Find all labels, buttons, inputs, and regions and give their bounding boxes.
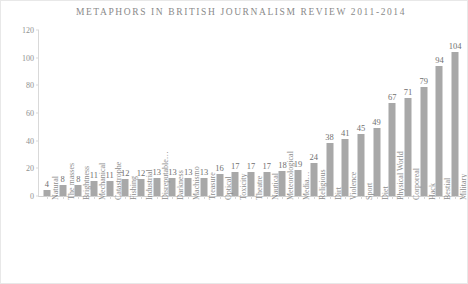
bar-slot: 17 bbox=[227, 30, 243, 196]
bar[interactable] bbox=[90, 181, 97, 196]
bar-value-label: 79 bbox=[419, 76, 428, 86]
bar-value-label: 19 bbox=[294, 159, 303, 169]
x-axis-tick-mark bbox=[94, 196, 95, 199]
bar[interactable] bbox=[420, 87, 427, 196]
x-axis-label-slot: Theatre bbox=[243, 200, 259, 284]
bar[interactable] bbox=[106, 181, 113, 196]
x-axis-tick-mark bbox=[110, 196, 111, 199]
bar[interactable] bbox=[216, 174, 223, 196]
x-axis-tick-mark bbox=[439, 196, 440, 199]
x-axis-label-slot: Catastrophe bbox=[102, 200, 118, 284]
x-axis-tick-mark bbox=[157, 196, 158, 199]
x-axis-label-slot: Diet bbox=[369, 200, 385, 284]
x-axis-tick-mark bbox=[345, 196, 346, 199]
x-axis-tick-mark bbox=[220, 196, 221, 199]
bar[interactable] bbox=[247, 172, 254, 196]
bar[interactable] bbox=[200, 178, 207, 196]
x-axis-label-slot: Optical bbox=[212, 200, 228, 284]
x-axis-tick-mark bbox=[392, 196, 393, 199]
x-axis-label-slot: Brightness bbox=[70, 200, 86, 284]
x-axis-tick-mark bbox=[455, 196, 456, 199]
x-axis-tick-mark bbox=[125, 196, 126, 199]
x-axis-tick-mark bbox=[78, 196, 79, 199]
bar[interactable] bbox=[310, 163, 317, 196]
x-axis-label-slot: Violence bbox=[337, 200, 353, 284]
bar-value-label: 94 bbox=[435, 55, 444, 65]
x-axis-tick-mark bbox=[282, 196, 283, 199]
x-axis-tick-mark bbox=[235, 196, 236, 199]
x-axis-label-slot: Treasure bbox=[196, 200, 212, 284]
x-axis-tick-label: Toxicity bbox=[239, 173, 248, 200]
bar[interactable] bbox=[138, 179, 145, 196]
bar-value-label: 45 bbox=[357, 123, 366, 133]
bar[interactable] bbox=[357, 134, 364, 196]
x-axis-tick-mark bbox=[408, 196, 409, 199]
bar-value-label: 8 bbox=[76, 174, 80, 184]
x-axis-tick-label: Fishing bbox=[129, 176, 138, 200]
bar-value-label: 17 bbox=[247, 161, 256, 171]
bar-value-label: 41 bbox=[341, 128, 350, 138]
x-axis-label-slot: Religious bbox=[306, 200, 322, 284]
bar-value-label: 8 bbox=[60, 174, 64, 184]
x-axis-label-slot: Nautical bbox=[259, 200, 275, 284]
x-axis-label-slot: Industrial bbox=[133, 200, 149, 284]
bar-value-label: 49 bbox=[372, 117, 381, 127]
chart-page: METAPHORS IN BRITISH JOURNALISM REVIEW 2… bbox=[0, 0, 468, 284]
x-axis-tick-mark bbox=[377, 196, 378, 199]
x-axis-tick-mark bbox=[330, 196, 331, 199]
x-axis-tick-mark bbox=[267, 196, 268, 199]
x-axis-tick-mark bbox=[361, 196, 362, 199]
x-axis-tick-label: Corporeal bbox=[412, 168, 421, 200]
x-axis-tick-label: Natural bbox=[50, 176, 59, 200]
bar[interactable] bbox=[436, 66, 443, 196]
x-axis-tick-label: Theatre bbox=[254, 176, 263, 200]
bar[interactable] bbox=[153, 178, 160, 196]
x-axis-tick-label: Violence bbox=[349, 172, 358, 200]
x-axis-label-slot: Media… bbox=[290, 200, 306, 284]
bar-slot: 4 bbox=[39, 30, 55, 196]
x-axis-tick-label: Diet bbox=[380, 186, 389, 200]
bar-slot: 17 bbox=[259, 30, 275, 196]
x-axis-tick-label: Bestial bbox=[443, 178, 452, 200]
x-axis-tick-label: Optical bbox=[223, 176, 232, 200]
bar[interactable] bbox=[326, 143, 333, 196]
bar-value-label: 24 bbox=[310, 152, 319, 162]
x-axis-tick-label: Treasure bbox=[207, 172, 216, 200]
x-axis-tick-label: Sport bbox=[364, 183, 373, 200]
x-axis-label-slot: Hack bbox=[416, 200, 432, 284]
x-axis-tick-mark bbox=[63, 196, 64, 199]
x-axis-label-slot: Corporeal bbox=[400, 200, 416, 284]
x-axis-tick-label: Media… bbox=[302, 172, 311, 200]
x-axis-tick-mark bbox=[188, 196, 189, 199]
x-axis-tick-label: Dirt bbox=[333, 187, 342, 200]
bar-slot: 104 bbox=[447, 30, 463, 196]
bar-value-label: 71 bbox=[404, 87, 413, 97]
bar[interactable] bbox=[263, 172, 270, 196]
x-axis-label-slot: Meteorological bbox=[275, 200, 291, 284]
bar-value-label: 104 bbox=[449, 41, 462, 51]
x-axis-tick-label: Disreputable… bbox=[160, 151, 169, 200]
x-axis-label-slot: Military bbox=[447, 200, 463, 284]
bar[interactable] bbox=[59, 185, 66, 196]
x-axis-tick-label: Machismo bbox=[192, 166, 201, 200]
bar-slot: 17 bbox=[243, 30, 259, 196]
x-axis-label-slot: Physical World bbox=[384, 200, 400, 284]
bar-slot: 94 bbox=[432, 30, 448, 196]
x-axis-tick-mark bbox=[424, 196, 425, 199]
x-axis-tick-label: Darkness bbox=[176, 170, 185, 200]
chart-title: METAPHORS IN BRITISH JOURNALISM REVIEW 2… bbox=[41, 5, 441, 19]
x-axis-label-slot: Machismo bbox=[180, 200, 196, 284]
x-axis-tick-label: Nautical bbox=[270, 173, 279, 200]
x-axis-tick-label: Industrial bbox=[145, 169, 154, 200]
x-axis-tick-label: Catastrophe bbox=[113, 162, 122, 200]
x-axis-label-slot: Sport bbox=[353, 200, 369, 284]
x-axis-tick-mark bbox=[251, 196, 252, 199]
x-axis-tick-label: Meteorological bbox=[286, 151, 295, 200]
bar[interactable] bbox=[405, 98, 412, 196]
x-axis-tick-mark bbox=[141, 196, 142, 199]
x-axis-tick-label: Hack bbox=[427, 183, 436, 200]
x-axis-tick-mark bbox=[204, 196, 205, 199]
bar[interactable] bbox=[373, 128, 380, 196]
bar-value-label: 38 bbox=[325, 132, 334, 142]
x-axis-label-slot: Toxicity bbox=[227, 200, 243, 284]
